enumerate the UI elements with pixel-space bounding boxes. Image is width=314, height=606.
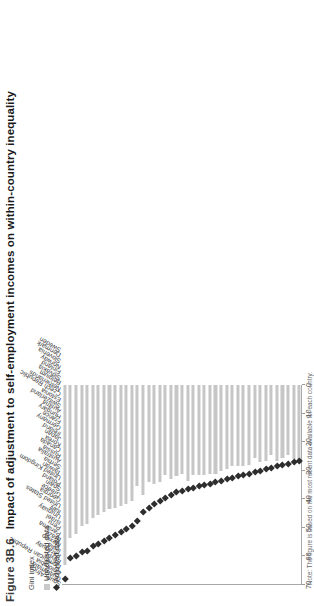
bar-unadjusted: [74, 385, 77, 534]
bar-unadjusted: [264, 385, 267, 461]
figure-title: Impact of adjustment to self-employment …: [4, 91, 16, 529]
category-labels: South AfricaGuatemalaColombiaDominican R…: [46, 385, 62, 585]
bar-unadjusted: [281, 385, 284, 458]
bar-unadjusted: [108, 385, 111, 509]
bar-unadjusted: [242, 385, 245, 466]
figure-note: Note: The figure is based on the most re…: [306, 372, 313, 585]
figure-title-row: Figure 3B.6 Impact of adjustment to self…: [4, 91, 16, 602]
bar-unadjusted: [192, 385, 195, 475]
bar-unadjusted: [298, 385, 301, 459]
marker-adjusted: [296, 457, 302, 463]
bar-unadjusted: [259, 385, 262, 462]
bar-unadjusted: [113, 385, 116, 508]
bar-unadjusted: [97, 385, 100, 515]
bar-unadjusted: [169, 385, 172, 479]
bar-unadjusted: [197, 385, 200, 475]
bar-unadjusted: [69, 385, 72, 538]
bar-unadjusted: [253, 385, 256, 458]
bar-unadjusted: [91, 385, 94, 518]
figure-page: Figure 3B.6 Impact of adjustment to self…: [0, 0, 314, 606]
bar-unadjusted: [214, 385, 217, 474]
figure-number: Figure 3B.6: [4, 538, 16, 602]
bar-unadjusted: [225, 385, 228, 469]
bar-unadjusted: [180, 385, 183, 474]
bar-unadjusted: [102, 385, 105, 512]
bar-unadjusted: [236, 385, 239, 466]
bar-unadjusted: [175, 385, 178, 476]
bar-unadjusted: [208, 385, 211, 474]
bar-unadjusted: [186, 385, 189, 481]
bar-unadjusted: [231, 385, 234, 466]
bar-unadjusted: [247, 385, 250, 465]
bar-unadjusted: [80, 385, 83, 526]
bar-unadjusted: [158, 385, 161, 482]
bar-unadjusted: [286, 385, 289, 455]
bar-unadjusted: [125, 385, 128, 504]
bar-unadjusted: [130, 385, 133, 501]
rotated-figure-canvas: Figure 3B.6 Impact of adjustment to self…: [0, 0, 314, 606]
plot-area: [62, 385, 302, 585]
bar-unadjusted: [164, 385, 167, 475]
bar-unadjusted: [63, 385, 66, 565]
bar-unadjusted: [119, 385, 122, 506]
bar-unadjusted: [86, 385, 89, 524]
bar-unadjusted: [141, 385, 144, 495]
bar-unadjusted: [147, 385, 150, 482]
bar-unadjusted: [136, 385, 139, 486]
bar-unadjusted: [203, 385, 206, 475]
bar-unadjusted: [275, 385, 278, 461]
bar-unadjusted: [153, 385, 156, 484]
bar-unadjusted: [220, 385, 223, 471]
bar-unadjusted: [292, 385, 295, 459]
bar-unadjusted: [270, 385, 273, 455]
